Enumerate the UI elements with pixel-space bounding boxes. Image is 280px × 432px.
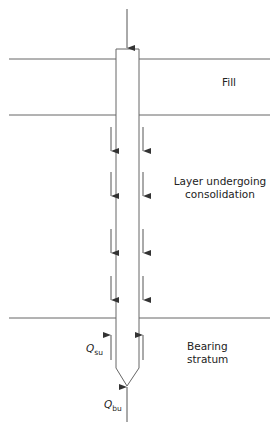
q-bu-subscript: bu [112,404,122,413]
bearing-label-line1: Bearing [187,340,228,352]
fill-label: Fill [222,76,236,88]
bearing-label-line2: stratum [187,353,228,365]
consolidation-label-line2: consolidation [185,188,255,200]
pile [116,49,139,386]
shaft-resistance-label: Qsu [86,342,103,357]
pile-diagram: Fill Layer undergoing consolidation Bear… [0,0,280,432]
q-bu-symbol: Q [104,398,112,410]
q-su-symbol: Q [86,342,94,354]
base-resistance-label: Qbu [104,398,122,413]
consolidation-label-line1: Layer undergoing [174,175,267,187]
q-su-subscript: su [94,348,103,357]
